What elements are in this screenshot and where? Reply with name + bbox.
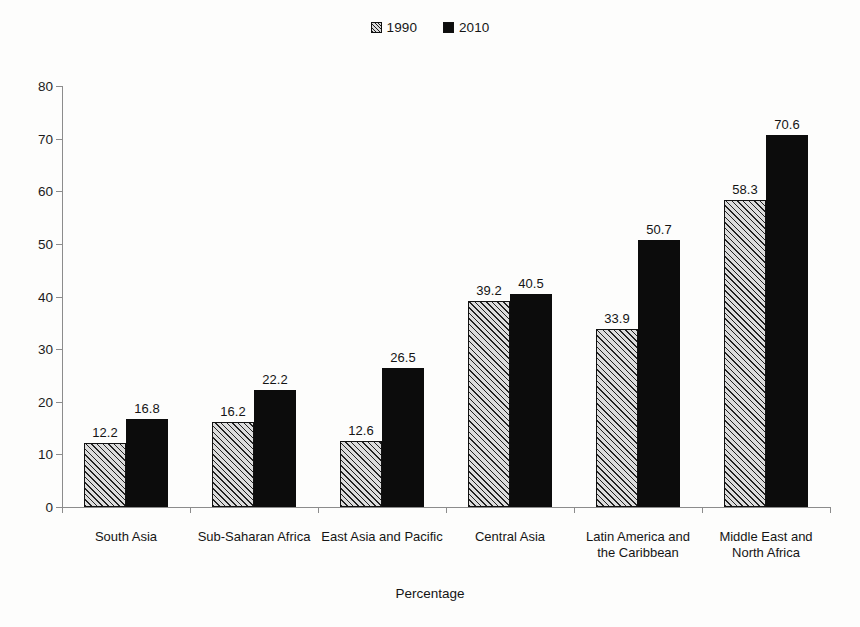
x-axis-tick [318,507,319,513]
chart-legend: 1990 2010 [0,20,860,35]
x-axis-tick [830,507,831,513]
x-axis-tick [62,507,63,513]
legend-item-1990: 1990 [371,20,417,35]
legend-item-2010: 2010 [443,20,489,35]
x-axis-tick [446,507,447,513]
x-axis-category-label: Middle East and North Africa [702,529,830,561]
x-axis-tick [702,507,703,513]
bar-1990-south-asia: 12.2 [84,443,126,507]
x-axis-tick [574,507,575,513]
bar-value-label: 12.6 [348,423,373,438]
y-axis-tick [56,86,62,87]
legend-label-1990: 1990 [387,20,417,35]
bar-2010-central-asia: 40.5 [510,294,552,507]
bar-value-label: 40.5 [518,276,543,291]
bar-value-label: 16.8 [134,401,159,416]
bar-2010-east-asia-and-pacific: 26.5 [382,368,424,507]
x-axis-category-label: Sub-Saharan Africa [190,529,318,545]
bar-2010-middle-east-and-north-africa: 70.6 [766,135,808,507]
y-axis-tick [56,349,62,350]
bar-value-label: 50.7 [646,222,671,237]
y-axis-tick [56,297,62,298]
y-axis-tick-label: 60 [38,184,53,199]
y-axis-line [62,86,63,507]
y-axis-tick [56,191,62,192]
bar-value-label: 26.5 [390,350,415,365]
y-axis-tick-label: 80 [38,79,53,94]
bar-value-label: 33.9 [604,311,629,326]
y-axis-tick [56,402,62,403]
y-axis-tick-label: 10 [38,447,53,462]
bar-value-label: 16.2 [220,404,245,419]
bar-1990-east-asia-and-pacific: 12.6 [340,441,382,507]
y-axis-tick [56,454,62,455]
y-axis-tick-label: 70 [38,131,53,146]
x-axis-category-label: Latin America and the Caribbean [574,529,702,561]
bar-value-label: 12.2 [92,425,117,440]
bar-value-label: 58.3 [732,182,757,197]
bar-value-label: 22.2 [262,372,287,387]
x-axis-category-label: East Asia and Pacific [318,529,446,545]
bar-chart: 1990 2010 01020304050607080 12.216.816.2… [0,0,860,627]
x-axis-title: Percentage [0,586,860,601]
x-axis-category-label: Central Asia [446,529,574,545]
hatched-swatch-icon [371,22,382,33]
x-axis-category-label: South Asia [62,529,190,545]
bar-2010-south-asia: 16.8 [126,419,168,507]
bar-2010-sub-saharan-africa: 22.2 [254,390,296,507]
bar-1990-latin-america-and-the-caribbean: 33.9 [596,329,638,507]
solid-swatch-icon [443,22,454,33]
y-axis-tick-label: 20 [38,394,53,409]
y-axis-tick [56,139,62,140]
y-axis-tick-label: 30 [38,342,53,357]
y-axis-tick-label: 40 [38,289,53,304]
bar-value-label: 39.2 [476,283,501,298]
bar-2010-latin-america-and-the-caribbean: 50.7 [638,240,680,507]
bar-1990-sub-saharan-africa: 16.2 [212,422,254,507]
y-axis-tick-label: 50 [38,236,53,251]
legend-label-2010: 2010 [459,20,489,35]
x-axis-tick [190,507,191,513]
y-axis-tick [56,244,62,245]
bar-1990-middle-east-and-north-africa: 58.3 [724,200,766,507]
bar-1990-central-asia: 39.2 [468,301,510,507]
plot-area: 01020304050607080 12.216.816.222.212.626… [62,86,830,507]
y-axis-tick-label: 0 [45,500,53,515]
bar-value-label: 70.6 [774,117,799,132]
